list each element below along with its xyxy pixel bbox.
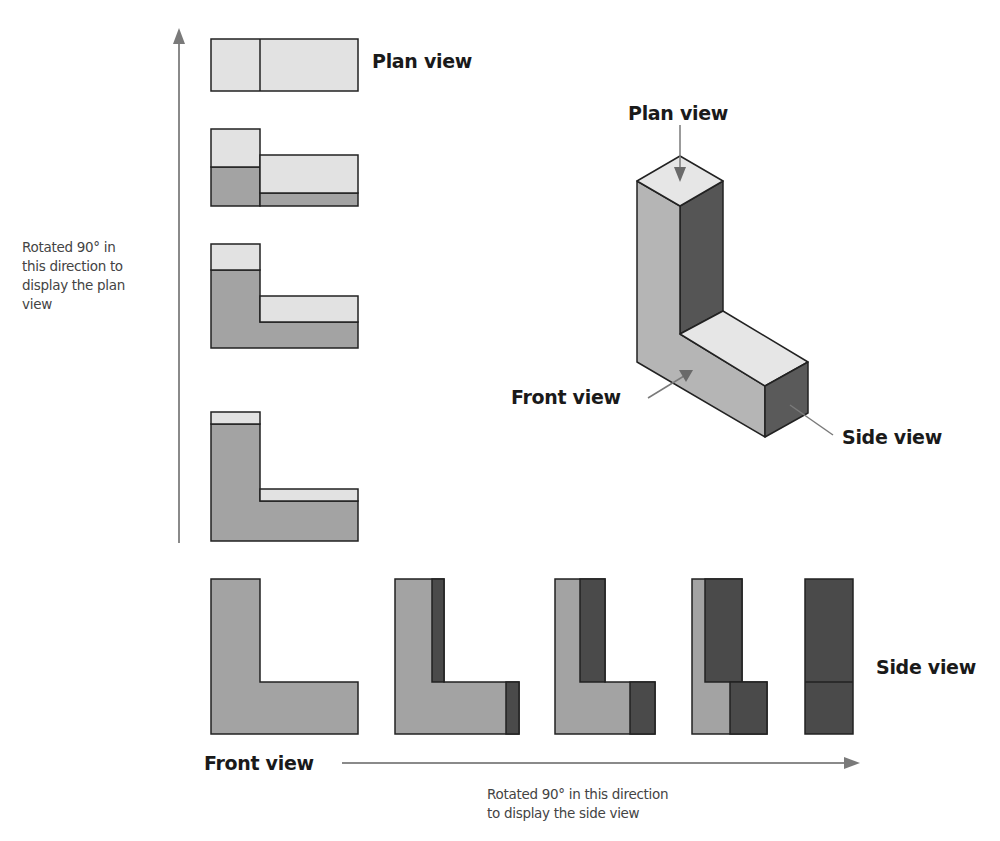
caption-line: display the plan bbox=[22, 276, 125, 295]
side-view-shape bbox=[805, 579, 853, 734]
orthographic-projection-diagram bbox=[0, 0, 1000, 841]
caption-line: view bbox=[22, 295, 125, 314]
caption-line: Rotated 90° in this direction bbox=[487, 785, 668, 804]
caption-line: to display the side view bbox=[487, 804, 668, 823]
plan-rotation-step-2-shape bbox=[211, 244, 358, 348]
caption-line: Rotated 90° in bbox=[22, 238, 125, 257]
plan-view-label-iso: Plan view bbox=[628, 102, 728, 124]
side-rotation-step-1-shape bbox=[395, 579, 519, 734]
side-rotation-step-3-shape bbox=[692, 579, 767, 734]
caption-line: this direction to bbox=[22, 257, 125, 276]
isometric-l-block bbox=[637, 156, 808, 437]
front-view-shape bbox=[211, 579, 358, 734]
vertical-rotation-arrow bbox=[173, 28, 185, 543]
plan-rotation-step-1-shape bbox=[211, 412, 358, 541]
rotate-plan-caption: Rotated 90° in this direction to display… bbox=[22, 238, 125, 314]
plan-view-shape bbox=[211, 39, 358, 91]
horizontal-rotation-arrow bbox=[342, 757, 860, 769]
plan-rotation-step-3-shape bbox=[211, 129, 358, 206]
plan-view-label-top: Plan view bbox=[372, 50, 472, 72]
side-rotation-step-2-shape bbox=[555, 579, 655, 734]
front-view-label-bottom: Front view bbox=[204, 752, 314, 774]
front-view-label-iso: Front view bbox=[511, 386, 621, 408]
side-view-label-iso: Side view bbox=[842, 426, 942, 448]
rotate-side-caption: Rotated 90° in this direction to display… bbox=[487, 785, 668, 823]
side-view-label-bottom: Side view bbox=[876, 656, 976, 678]
